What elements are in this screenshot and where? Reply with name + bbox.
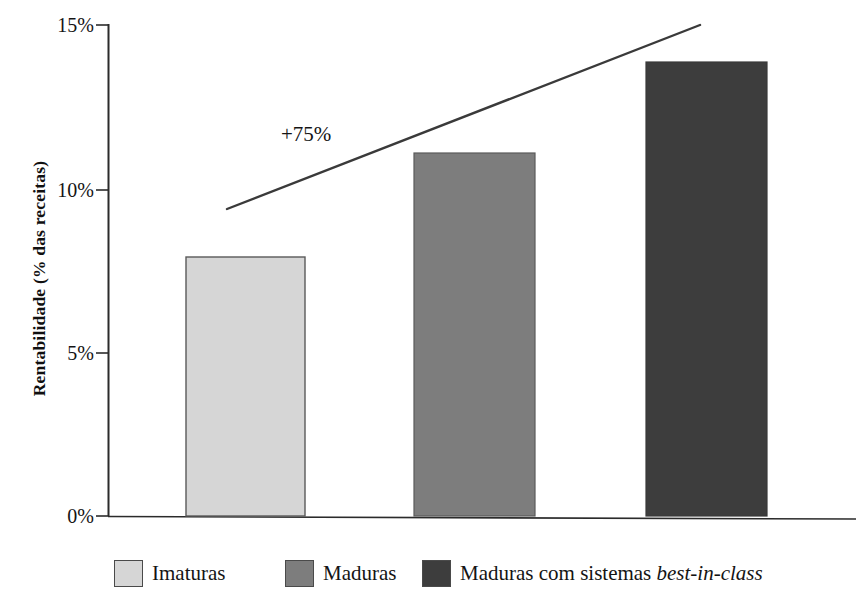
chart-plot-area (0, 0, 860, 604)
bar-maduras (414, 153, 535, 516)
legend-label-imaturas: Imaturas (152, 563, 225, 584)
legend-label-maduras-best-in-class: Maduras com sistemas best-in-class (460, 563, 763, 584)
y-axis-title: Rentabilidade (% das receitas) (29, 64, 50, 494)
x-axis-line (108, 517, 856, 520)
legend-item-maduras-best-in-class[interactable]: Maduras com sistemas best-in-class (422, 556, 763, 590)
trend-growth-annotation: +75% (281, 122, 331, 147)
legend-label-maduras-best-in-class-text: Maduras com sistemas (460, 561, 657, 585)
y-tick-label-15: 15% (28, 15, 94, 35)
legend-label-imaturas-text: Imaturas (152, 561, 225, 585)
legend-swatch-imaturas-icon (114, 560, 143, 587)
legend-item-maduras[interactable]: Maduras (285, 556, 396, 590)
legend-swatch-maduras-best-in-class-icon (422, 560, 451, 587)
legend-label-maduras: Maduras (323, 563, 396, 584)
legend-item-imaturas[interactable]: Imaturas (114, 556, 225, 590)
legend-swatch-maduras-icon (285, 560, 314, 587)
chart-legend: Imaturas Maduras Maduras com sistemas be… (0, 556, 860, 590)
bar-imaturas (186, 257, 305, 516)
y-tick-label-0: 0% (28, 506, 94, 526)
legend-label-maduras-text: Maduras (323, 561, 396, 585)
legend-label-best-in-class-emphasis: best-in-class (657, 561, 763, 585)
profitability-bar-chart: 15% 10% 5% 0% Rentabilidade (% das recei… (0, 0, 860, 604)
bar-maduras-best-in-class (646, 62, 767, 516)
